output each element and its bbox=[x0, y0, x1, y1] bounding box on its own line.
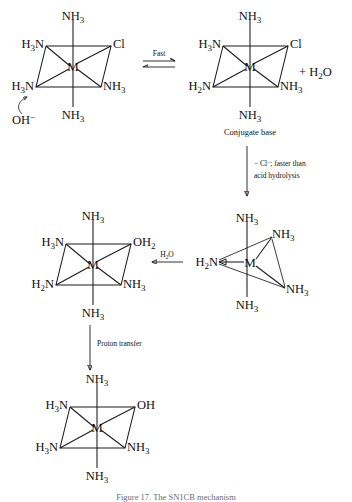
aqua-complex-metal-center: M bbox=[87, 258, 99, 271]
conjugate-base-ligand-bottom: NH3 bbox=[239, 109, 262, 124]
equilibrium-arrow-label: Fast bbox=[153, 50, 166, 58]
reactant-ligand-top: NH3 bbox=[62, 10, 85, 25]
water-byproduct: + H2O bbox=[299, 66, 332, 81]
reactant-ligand-bottom: NH3 bbox=[62, 109, 85, 124]
intermediate-ligand-bottom: NH3 bbox=[236, 299, 259, 314]
reactant-ligand-back-left: H3N bbox=[21, 38, 44, 53]
intermediate-ligand-top: NH3 bbox=[236, 212, 259, 227]
reactant-bond-group bbox=[19, 20, 111, 114]
proton-transfer-label: Proton transfer bbox=[97, 340, 142, 348]
reactant-metal-center: M bbox=[67, 60, 79, 73]
aqua-complex-ligand-front-left: H2N bbox=[31, 278, 54, 293]
product-ligand-front-right: NH3 bbox=[127, 441, 150, 456]
aqua-complex-ligand-front-right: NH3 bbox=[123, 278, 146, 293]
product-ligand-top: NH3 bbox=[86, 373, 109, 388]
aqua-complex-ligand-top: NH3 bbox=[82, 210, 105, 225]
reactant-ligand-front-right: NH3 bbox=[103, 80, 126, 95]
water-attack-arrow-label: H2O bbox=[160, 251, 174, 260]
reactant-ligand-back-right: Cl bbox=[113, 38, 125, 51]
conjugate-base-caption: Conjugate base bbox=[224, 128, 276, 137]
conjugate-base-ligand-top: NH3 bbox=[239, 10, 262, 25]
intermediate-ligand-lower-right: NH3 bbox=[286, 283, 309, 298]
intermediate-ligand-left: H2N bbox=[195, 256, 218, 271]
conjugate-base-ligand-front-right: NH3 bbox=[280, 80, 303, 95]
chloride-loss-label-line1: − Cl−; faster than bbox=[254, 160, 306, 168]
aqua-complex-ligand-back-left: H3N bbox=[41, 236, 64, 251]
product-ligand-bottom: NH3 bbox=[86, 470, 109, 485]
product-ligand-back-left: H3N bbox=[45, 399, 68, 414]
figure-caption: Figure 17. The SN1CB mechanism bbox=[116, 493, 236, 502]
conjugate-base-ligand-back-left: H3N bbox=[198, 38, 221, 53]
product-ligand-back-right: OH bbox=[137, 399, 155, 412]
chloride-loss-label-line2: acid hydrolysis bbox=[254, 172, 300, 180]
conjugate-base-ligand-back-right: Cl bbox=[290, 38, 302, 51]
conjugate-base-metal-center: M bbox=[244, 60, 256, 73]
conjugate-base-ligand-front-left: H2N bbox=[188, 80, 211, 95]
aqua-complex-ligand-back-right: OH2 bbox=[133, 236, 156, 251]
intermediate-ligand-upper-right: NH3 bbox=[272, 228, 295, 243]
equilibrium-arrow-lines bbox=[143, 61, 175, 67]
hydroxide-reagent: OH− bbox=[12, 113, 35, 126]
product-ligand-front-left: H3N bbox=[35, 441, 58, 456]
reactant-ligand-front-left: H3N bbox=[11, 80, 34, 95]
aqua-complex-ligand-bottom: NH3 bbox=[82, 307, 105, 322]
intermediate-metal-center: M bbox=[244, 256, 256, 269]
product-metal-center: M bbox=[91, 421, 103, 434]
